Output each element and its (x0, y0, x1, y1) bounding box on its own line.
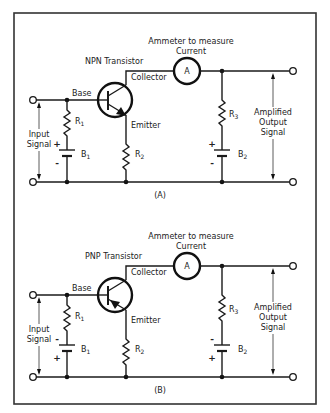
r1-label: R1 (75, 312, 85, 322)
output-label-line3: Signal (261, 323, 286, 332)
ammeter-symbol: A (184, 262, 190, 271)
r2-label: R2 (135, 150, 145, 160)
r1-label: R1 (75, 117, 85, 127)
resistor-r1 (64, 100, 70, 150)
ammeter-title-line2: Current (176, 242, 206, 251)
b1-top-sign: + (53, 139, 61, 149)
caption-b: (B) (154, 386, 166, 395)
b1-top-sign: - (55, 334, 59, 344)
b1-bottom-sign: - (55, 158, 59, 168)
emitter-label: Emitter (131, 121, 161, 130)
npn-emitter-arrow (116, 107, 126, 116)
transistor-type-label: PNP Transistor (85, 252, 143, 261)
b1-bottom-sign: + (53, 353, 61, 363)
output-label-line2: Output (259, 118, 287, 127)
caption-a: (A) (154, 191, 166, 200)
resistor-r2 (123, 335, 129, 377)
b2-bottom-sign: - (210, 158, 214, 168)
emitter-label: Emitter (131, 316, 161, 325)
b2-bottom-sign: + (208, 353, 216, 363)
output-terminal-bottom (290, 374, 297, 381)
output-label-line1: Amplified (254, 108, 292, 117)
base-label: Base (72, 284, 92, 293)
collector-lead (108, 85, 126, 96)
r3-label: R3 (229, 305, 239, 315)
b2-top-sign: - (210, 334, 214, 344)
base-label: Base (72, 89, 92, 98)
input-terminal-top (30, 292, 37, 299)
resistor-r1 (64, 295, 70, 345)
input-terminal-top (30, 97, 37, 104)
transistor-circuits-diagram: Input Signal R1 + - B1 Base Collector Em… (0, 0, 330, 413)
r2-label: R2 (135, 345, 145, 355)
resistor-r3 (219, 71, 225, 150)
r3-label: R3 (229, 110, 239, 120)
transistor-type-label: NPN Transistor (85, 57, 144, 66)
output-label-line1: Amplified (254, 303, 292, 312)
input-label-line1: Input (29, 130, 50, 139)
output-label-line3: Signal (261, 128, 286, 137)
ammeter-title-line2: Current (176, 47, 206, 56)
output-label-line2: Output (259, 313, 287, 322)
input-label-line2: Signal (27, 335, 52, 344)
arrowhead-up (37, 297, 41, 303)
collector-label: Collector (131, 268, 167, 277)
collector-label: Collector (131, 73, 167, 82)
output-terminal-bottom (290, 179, 297, 186)
arrowhead-down (37, 369, 41, 375)
b2-label: B2 (238, 345, 248, 355)
arrowhead-up (37, 102, 41, 108)
b1-label: B1 (81, 345, 91, 355)
resistor-r3 (219, 266, 225, 345)
arrowhead-down (271, 174, 275, 180)
resistor-r2 (123, 140, 129, 182)
collector-lead (108, 280, 126, 291)
arrowhead-up (271, 73, 275, 79)
arrowhead-down (271, 369, 275, 375)
pnp-emitter-arrow (110, 300, 120, 309)
input-terminal-bottom (30, 374, 37, 381)
circuit-a: Input Signal R1 + - B1 Base Collector Em… (26, 37, 296, 200)
input-terminal-bottom (30, 179, 37, 186)
ammeter-title-line1: Ammeter to measure (148, 232, 233, 241)
arrowhead-down (37, 174, 41, 180)
ammeter-title-line1: Ammeter to measure (148, 37, 233, 46)
b1-label: B1 (81, 150, 91, 160)
input-label-line2: Signal (27, 140, 52, 149)
input-label-line1: Input (29, 325, 50, 334)
b2-top-sign: + (208, 139, 216, 149)
output-terminal-top (290, 68, 297, 75)
b2-label: B2 (238, 150, 248, 160)
arrowhead-up (271, 268, 275, 274)
ammeter-symbol: A (184, 67, 190, 76)
output-terminal-top (290, 263, 297, 270)
circuit-b: Input Signal R1 - + B1 Base Collector Em… (26, 232, 296, 395)
